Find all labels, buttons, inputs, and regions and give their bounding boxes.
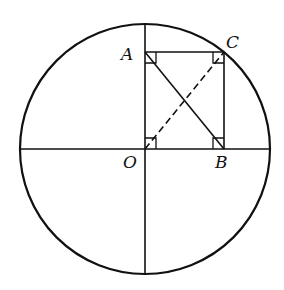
label-C: C [226,32,239,52]
label-A: A [119,44,133,64]
label-O: O [123,152,137,172]
diagonal-AB [145,52,224,149]
label-B: B [214,152,228,172]
geometry-diagram: A C O B [0,0,284,290]
